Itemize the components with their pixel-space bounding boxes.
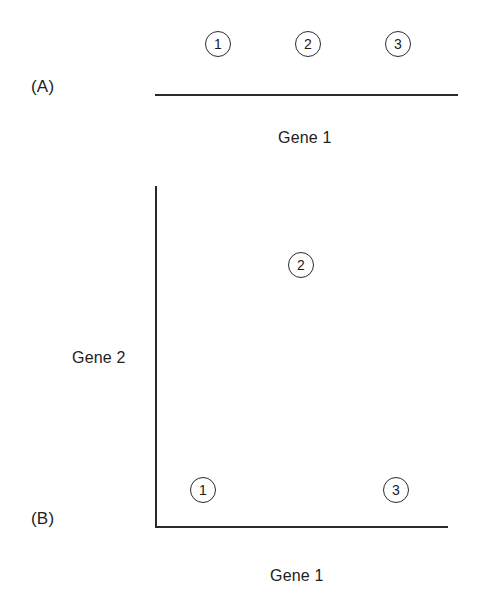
panel-a-x-axis-title: Gene 1: [278, 129, 332, 147]
panel-a-label: (A): [31, 77, 54, 97]
panel-a-marker-3-label: 3: [394, 37, 402, 51]
panel-b: (B) Gene 2 1 2 3 Gene 1: [0, 168, 479, 607]
panel-b-marker-1-label: 1: [199, 483, 207, 497]
panel-a-x-axis-line: [155, 94, 458, 96]
panel-a-marker-1-label: 1: [214, 37, 222, 51]
panel-a-marker-3: 3: [385, 31, 411, 57]
panel-a: (A) 1 2 3 Gene 1: [0, 0, 479, 168]
panel-b-marker-2: 2: [288, 252, 314, 278]
panel-a-marker-1: 1: [205, 31, 231, 57]
panel-b-marker-3: 3: [383, 477, 409, 503]
panel-a-marker-2: 2: [295, 31, 321, 57]
panel-b-y-axis-line: [155, 186, 157, 528]
panel-b-marker-1: 1: [190, 477, 216, 503]
panel-b-marker-3-label: 3: [392, 483, 400, 497]
panel-b-y-axis-title: Gene 2: [72, 349, 126, 367]
panel-b-marker-2-label: 2: [297, 258, 305, 272]
figure-root: (A) 1 2 3 Gene 1 (B) Gene 2 1 2 3 Gene 1: [0, 0, 479, 607]
panel-b-label: (B): [31, 509, 54, 529]
panel-b-x-axis-title: Gene 1: [270, 567, 324, 585]
panel-a-marker-2-label: 2: [304, 37, 312, 51]
panel-b-x-axis-line: [155, 526, 448, 528]
